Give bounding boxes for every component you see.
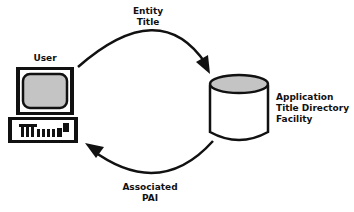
request-label: Entity Title [118,6,178,28]
computer-terminal-icon [8,67,78,143]
directory-label-line-2: Title Directory [276,103,354,114]
request-arrow [78,30,210,74]
response-label: Associated PAI [110,182,190,204]
response-arrow [85,141,213,173]
directory-label-line-3: Facility [276,114,354,125]
request-label-line-2: Title [118,17,178,28]
directory-label-line-1: Application [276,92,354,103]
response-label-line-2: PAI [110,193,190,204]
database-cylinder-icon [210,75,268,140]
response-label-line-1: Associated [110,182,190,193]
request-label-line-1: Entity [118,6,178,17]
user-label: User [30,53,60,64]
directory-label: Application Title Directory Facility [276,92,354,125]
